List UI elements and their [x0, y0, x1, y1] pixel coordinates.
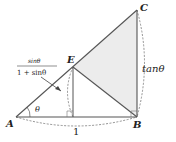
label-e: E	[66, 54, 75, 65]
fraction-numerator: sinθ	[28, 57, 41, 64]
arrow-head-icon	[55, 86, 61, 91]
label-base-length: 1	[73, 126, 79, 137]
label-b: B	[132, 119, 141, 130]
label-c: C	[140, 2, 148, 13]
geometry-diagram: A B C E θ 1 tanθ sinθ 1 + sinθ	[0, 0, 176, 142]
shaded-triangle-ecb	[73, 10, 137, 117]
right-angle-mark-f	[67, 111, 73, 117]
dashed-arc-ae	[68, 67, 74, 117]
label-a: A	[5, 118, 14, 129]
angle-arc-a	[27, 107, 30, 117]
dashed-arc-base	[16, 117, 137, 126]
fraction-denominator: 1 + sinθ	[17, 69, 46, 77]
label-theta: θ	[35, 105, 40, 114]
label-tan-theta: tanθ	[142, 63, 164, 74]
